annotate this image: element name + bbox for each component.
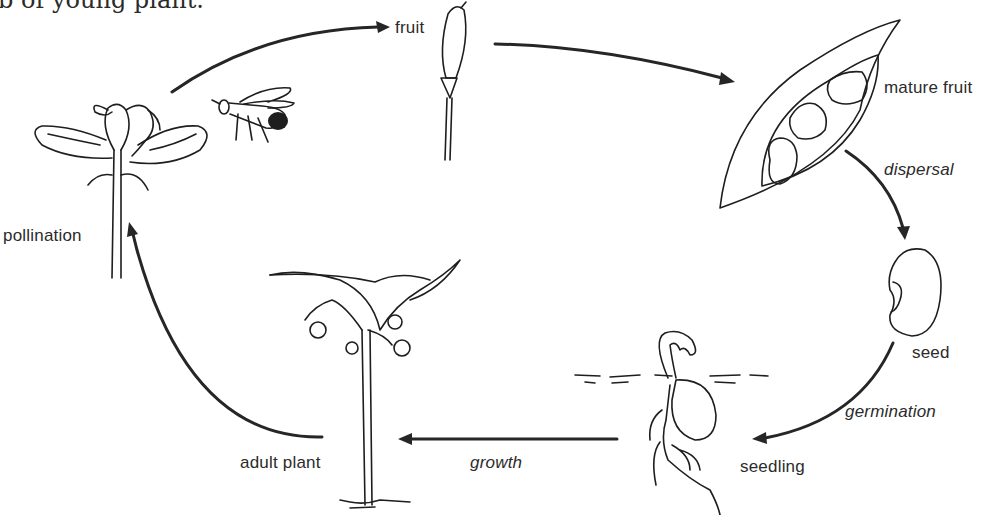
arrow-adult-to-pollination (127, 222, 322, 437)
arrow-germination (752, 343, 893, 444)
bee-illustration (212, 88, 294, 142)
label-pollination: pollination (3, 226, 82, 246)
label-growth: growth (470, 453, 522, 473)
label-germination: germination (845, 402, 936, 422)
mature-fruit-pod-illustration (720, 20, 900, 208)
label-seedling: seedling (740, 457, 805, 477)
seed-illustration (889, 249, 941, 336)
label-adult-plant: adult plant (240, 453, 321, 473)
arrow-fruit-to-mature-fruit (495, 44, 735, 85)
label-fruit: fruit (395, 18, 424, 38)
fruit-illustration (441, 2, 466, 160)
seedling-illustration (575, 332, 768, 515)
label-seed: seed (912, 343, 950, 363)
arrow-growth (398, 433, 617, 445)
label-mature-fruit: mature fruit (884, 78, 972, 98)
diagram-artwork (0, 0, 996, 515)
arrow-pollination-to-fruit (172, 21, 390, 92)
label-dispersal: dispersal (884, 160, 954, 180)
life-cycle-diagram: b of young plant. (0, 0, 996, 515)
flowering-plant-illustration (35, 104, 207, 278)
